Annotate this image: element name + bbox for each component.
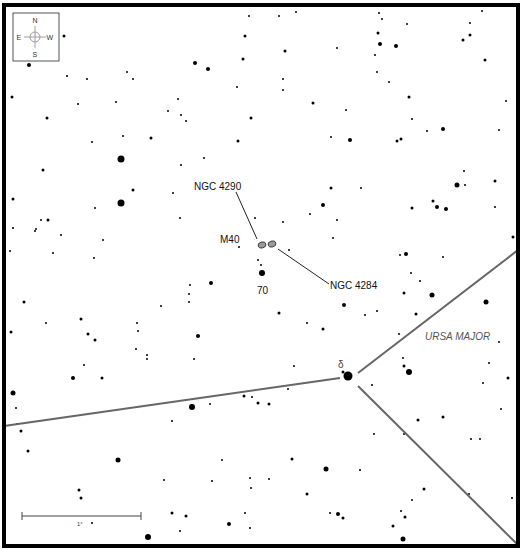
star <box>430 293 435 298</box>
star <box>209 281 213 285</box>
star <box>35 228 37 230</box>
star <box>259 270 265 276</box>
star <box>126 71 128 73</box>
star <box>179 217 181 219</box>
star <box>86 78 88 80</box>
star <box>345 109 347 111</box>
star <box>132 189 135 192</box>
label-delta: δ <box>338 359 344 370</box>
star <box>322 328 325 331</box>
star <box>40 219 42 221</box>
star <box>160 305 162 307</box>
star <box>268 478 270 480</box>
star <box>455 183 460 188</box>
compass-east: E <box>17 34 22 41</box>
star <box>398 333 400 335</box>
star <box>250 487 252 489</box>
star <box>12 198 15 201</box>
star <box>394 44 398 48</box>
star <box>260 264 262 266</box>
star <box>330 136 332 138</box>
star <box>250 117 253 120</box>
star-chart: NGC 4290 M40 70 NGC 4284 δ URSA MAJOR N … <box>0 0 526 557</box>
star <box>137 330 139 332</box>
star <box>442 416 445 419</box>
star <box>23 301 26 304</box>
star <box>336 512 340 516</box>
star <box>15 407 17 409</box>
star <box>45 322 47 324</box>
star <box>257 402 260 405</box>
star <box>42 169 45 172</box>
star <box>118 200 125 207</box>
star <box>83 364 85 366</box>
star <box>91 522 93 524</box>
star <box>9 250 11 252</box>
star <box>400 138 403 141</box>
star <box>401 537 406 542</box>
label-ursa-major: URSA MAJOR <box>425 331 490 342</box>
star <box>381 18 383 20</box>
star <box>403 365 406 368</box>
star <box>248 15 250 17</box>
star <box>306 493 309 496</box>
star <box>419 280 421 282</box>
star <box>47 219 50 222</box>
star <box>171 512 174 515</box>
star <box>244 35 247 38</box>
star <box>309 213 311 215</box>
star <box>360 187 362 189</box>
star <box>400 510 402 512</box>
star <box>373 433 375 435</box>
star <box>87 333 90 336</box>
star <box>388 81 390 83</box>
star <box>411 207 414 210</box>
star <box>432 200 435 203</box>
star <box>185 515 188 518</box>
star <box>188 301 190 303</box>
star <box>484 59 487 62</box>
star <box>330 187 333 190</box>
star <box>374 54 376 56</box>
star <box>426 130 428 132</box>
star <box>278 15 280 17</box>
star <box>359 469 361 471</box>
star <box>167 110 169 112</box>
star <box>469 34 472 37</box>
star <box>484 300 489 305</box>
label-star-70: 70 <box>257 285 269 296</box>
star <box>189 404 195 410</box>
star <box>20 430 23 433</box>
star <box>282 221 284 223</box>
star <box>180 164 182 166</box>
star <box>336 47 338 49</box>
star <box>136 322 138 324</box>
star <box>396 140 399 143</box>
star <box>179 530 181 532</box>
star <box>163 479 165 481</box>
star <box>146 354 148 356</box>
star <box>371 384 373 386</box>
star <box>479 438 481 440</box>
star <box>410 272 412 274</box>
star <box>342 517 345 520</box>
star <box>243 395 246 398</box>
star <box>376 71 378 73</box>
star <box>193 61 197 65</box>
star <box>60 234 62 236</box>
star <box>242 58 245 61</box>
star <box>193 358 195 360</box>
star <box>306 322 308 324</box>
star <box>257 259 259 261</box>
star <box>376 310 378 312</box>
star <box>237 140 240 143</box>
star <box>101 377 104 380</box>
star <box>402 357 404 359</box>
star <box>102 239 104 241</box>
label-ngc4284: NGC 4284 <box>330 280 378 291</box>
star <box>378 12 380 14</box>
star <box>406 369 412 375</box>
star <box>404 516 407 519</box>
star <box>116 458 121 463</box>
star <box>227 522 231 526</box>
